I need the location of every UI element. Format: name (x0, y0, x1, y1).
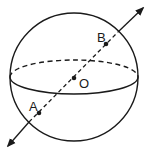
label-a: A (29, 99, 38, 114)
equator-back-dashed (10, 60, 138, 77)
point-o (72, 76, 77, 81)
axis-line-lower-ray (8, 122, 29, 146)
label-b: B (97, 30, 106, 45)
sphere-diagram: B O A (0, 0, 152, 157)
axis-line-upper-ray (118, 8, 143, 32)
label-o: O (79, 76, 89, 91)
